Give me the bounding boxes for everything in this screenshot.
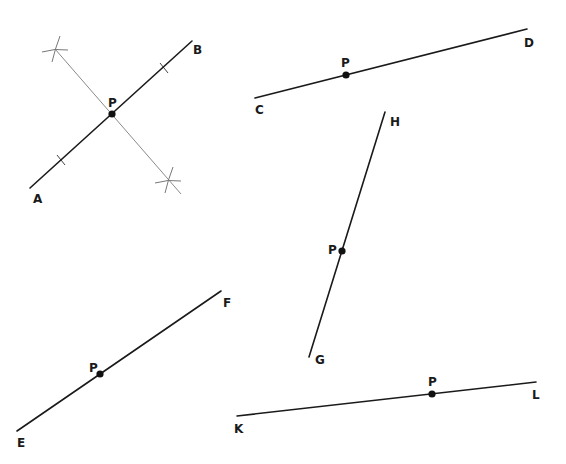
point-p — [342, 71, 349, 78]
label-c: C — [255, 103, 264, 117]
label-p: P — [341, 56, 350, 70]
point-p — [428, 390, 435, 397]
label-g: G — [315, 353, 325, 367]
label-f: F — [223, 296, 231, 310]
segment-gh — [309, 112, 385, 357]
label-l: L — [532, 388, 540, 402]
figure-ef: EFP — [17, 291, 231, 450]
point-p — [108, 110, 115, 117]
compass-arc-mark — [42, 36, 68, 62]
label-h: H — [390, 115, 400, 129]
label-p: P — [108, 96, 117, 110]
figure-ab: ABP — [30, 36, 202, 206]
figure-cd: CDP — [255, 29, 534, 117]
label-a: A — [33, 192, 43, 206]
label-e: E — [17, 436, 25, 450]
perpendicular-bisector-line — [55, 49, 181, 194]
figure-kl: KLP — [234, 375, 540, 436]
label-d: D — [524, 36, 534, 50]
segment-cd — [255, 29, 527, 98]
figure-gh: GHP — [309, 112, 400, 367]
label-b: B — [193, 43, 202, 57]
segment-ef — [17, 291, 221, 431]
point-p — [338, 247, 345, 254]
label-p: P — [428, 375, 437, 389]
diagram-canvas: ABPCDPGHPEFPKLP — [0, 0, 566, 464]
label-k: K — [234, 422, 244, 436]
label-p: P — [328, 243, 337, 257]
segment-kl — [237, 382, 536, 416]
label-p: P — [89, 361, 98, 375]
